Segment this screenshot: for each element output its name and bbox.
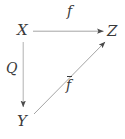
arrow-label-q: Q bbox=[6, 61, 17, 75]
overline-group: f bbox=[66, 76, 71, 92]
node-label-y: Y bbox=[17, 114, 27, 129]
arrow-label-f-bar-glyph: f bbox=[66, 78, 71, 92]
commutative-diagram: X Z Y f Q f bbox=[0, 0, 125, 139]
arrow-label-f: f bbox=[67, 4, 72, 18]
node-label-x: X bbox=[17, 23, 28, 38]
overline-bar bbox=[67, 76, 72, 77]
arrow-label-f-bar: f bbox=[66, 76, 71, 92]
node-label-z: Z bbox=[107, 24, 117, 39]
